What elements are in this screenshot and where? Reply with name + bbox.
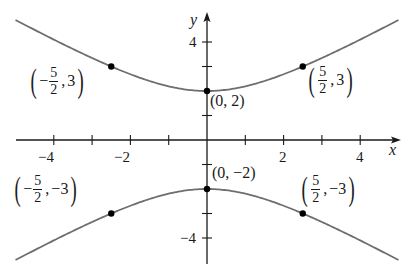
comma: ,: [45, 181, 49, 197]
close-paren: ): [78, 64, 84, 98]
fraction-5-2: 52: [33, 174, 42, 205]
close-paren: ): [349, 172, 355, 206]
x-axis-label: x: [389, 142, 396, 158]
minus-sign: −: [23, 181, 32, 197]
hyperbola-plot: [0, 0, 406, 278]
numerator: 5: [311, 174, 320, 189]
point-label-0-neg2: (0, −2): [212, 164, 256, 182]
denominator: 2: [311, 189, 320, 205]
fraction-5-2: 52: [318, 65, 327, 96]
point-marker: [300, 210, 306, 216]
open-paren: (: [31, 64, 37, 98]
fraction-5-2: 52: [311, 174, 320, 205]
y-value: −3: [329, 181, 346, 197]
y-value: 3: [67, 73, 75, 89]
close-paren: ): [347, 63, 353, 97]
y-tick-label-4: 4: [189, 35, 197, 50]
point-label-5-2-3: ( 52 , 3 ): [306, 63, 356, 97]
denominator: 2: [33, 189, 42, 205]
point-marker: [300, 63, 306, 69]
denominator: 2: [318, 80, 327, 96]
comma: ,: [61, 73, 65, 89]
x-tick-label-neg2: −2: [114, 150, 130, 165]
open-paren: (: [15, 172, 21, 206]
fraction-5-2: 52: [49, 66, 58, 97]
comma: ,: [330, 72, 334, 88]
close-paren: ): [71, 172, 77, 206]
denominator: 2: [49, 81, 58, 97]
numerator: 5: [49, 66, 58, 81]
y-tick-label-neg4: −4: [180, 231, 196, 246]
point-marker: [108, 210, 114, 216]
axes: [16, 18, 396, 264]
numerator: 5: [318, 65, 327, 80]
point-label-neg5-2-neg3: ( − 52 , −3 ): [12, 172, 80, 206]
y-axis-label: y: [190, 12, 197, 28]
point-label-neg5-2-3: ( − 52 , 3 ): [28, 64, 87, 98]
x-tick-label-4: 4: [356, 150, 364, 165]
point-marker: [204, 186, 210, 192]
open-paren: (: [302, 172, 308, 206]
x-tick-label-neg4: −4: [38, 150, 54, 165]
open-paren: (: [309, 63, 315, 97]
numerator: 5: [33, 174, 42, 189]
comma: ,: [323, 181, 327, 197]
point-label-0-2: (0, 2): [210, 92, 245, 110]
point-marker: [108, 63, 114, 69]
y-value: −3: [51, 181, 68, 197]
x-tick-label-2: 2: [279, 150, 287, 165]
y-value: 3: [336, 72, 344, 88]
point-label-5-2-neg3: ( 52 , −3 ): [299, 172, 358, 206]
minus-sign: −: [39, 73, 48, 89]
